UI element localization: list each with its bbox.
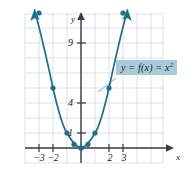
parabola-plot: 9 4 1 −3 −2 2 3 y x [0,0,193,176]
data-point [71,142,76,147]
y-axis [77,12,85,163]
x-tick-label-3: 3 [121,152,127,163]
y-tick-label-4: 4 [68,97,73,108]
data-point [50,85,55,90]
equation-label-text: y = f(x) = x [121,62,170,73]
y-tick-label-1: 1 [68,127,73,138]
equation-label: y = f(x) = x2 [116,60,177,75]
x-tick-label-2: 2 [108,152,113,163]
x-axis [25,144,174,152]
graph-figure: 9 4 1 −3 −2 2 3 y x y = f(x) = x2 [0,0,193,176]
grid-lines [25,14,163,163]
y-axis-name: y [70,14,75,24]
x-tick-label-neg2: −2 [47,152,59,163]
data-point [36,10,41,15]
data-point [92,130,97,135]
annotation-leader-line [98,78,116,92]
data-point [120,10,125,15]
x-axis-name: x [175,152,180,162]
x-tick-label-neg3: −3 [33,152,45,163]
data-point [106,85,111,90]
data-point [85,142,90,147]
equation-label-exponent: 2 [170,61,174,69]
y-tick-label-9: 9 [68,37,73,48]
data-point [78,145,84,151]
